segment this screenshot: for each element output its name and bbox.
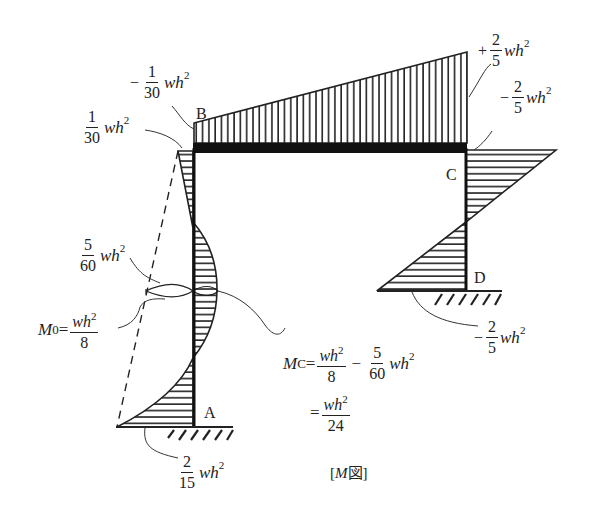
annotation-beam-left-moment: −130wh2 — [130, 63, 189, 102]
beam-bc — [193, 143, 467, 153]
fixed-support-a — [116, 427, 233, 440]
annotation-mid-offset: 560wh2 — [76, 236, 125, 275]
diagram-caption: [M図] — [330, 466, 368, 481]
node-label-d: D — [474, 270, 486, 286]
annotation-mc-result: =wh224 — [310, 390, 352, 435]
beam-moment-region — [194, 52, 467, 143]
fixed-support-d — [377, 291, 502, 305]
column-ab-moment-region — [117, 151, 217, 427]
annotation-mc-equation: MC=wh28−560wh2 — [283, 341, 415, 386]
annotation-column-top-right-moment: −25wh2 — [500, 78, 551, 117]
annotation-base-left-moment: 215wh2 — [175, 453, 224, 492]
node-label-a: A — [204, 405, 216, 421]
annotation-column-top-left-moment: 130wh2 — [80, 108, 129, 147]
annotation-beam-right-moment: +25wh2 — [478, 31, 529, 70]
node-label-b: B — [196, 106, 207, 122]
annotation-base-right-moment: −25wh2 — [474, 318, 525, 357]
annotation-m0: M0=wh28 — [38, 307, 100, 352]
node-label-c: C — [446, 167, 457, 183]
dashed-chord-line — [117, 151, 178, 427]
